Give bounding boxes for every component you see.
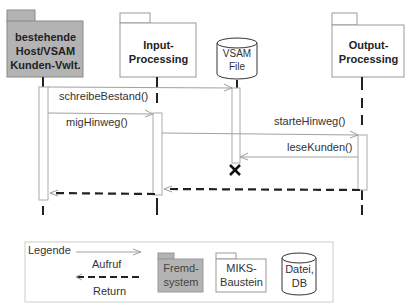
legend-external-line-2: system <box>158 275 204 289</box>
return-arrows <box>50 186 360 196</box>
legend-module-label: MIKS- Baustein <box>216 261 267 289</box>
input-label-line-2: Processing <box>120 52 197 66</box>
legend-db-label: Datei, DB <box>282 262 317 290</box>
vsam-label-line-2: File <box>217 60 257 73</box>
message-label-schreibebestand: schreibeBestand() <box>59 90 148 102</box>
message-label-mighinweg: migHinweg() <box>66 116 128 128</box>
input-participant-label: Input- Processing <box>120 38 197 66</box>
legend-db-line-2: DB <box>282 276 317 290</box>
legend-module-line-1: MIKS- <box>216 261 267 275</box>
input-label-line-1: Input- <box>120 38 197 52</box>
output-label-line-1: Output- <box>332 38 405 52</box>
host-label-line-3: Kunden-Vwlt. <box>7 58 84 72</box>
vsam-participant-label: VSAM File <box>217 47 257 73</box>
legend-external-line-1: Fremd- <box>158 261 204 275</box>
destroy-x-icon <box>230 165 240 175</box>
legend-call-label: Aufruf <box>92 258 121 270</box>
message-label-lesekunden: leseKunden() <box>287 141 352 153</box>
legend-module-line-2: Baustein <box>216 275 267 289</box>
legend-db-line-1: Datei, <box>282 262 317 276</box>
message-label-startehinweg: starteHinweg() <box>274 115 346 127</box>
vsam-label-line-1: VSAM <box>217 47 257 60</box>
output-label-line-2: Processing <box>332 52 405 66</box>
legend-external-system-label: Fremd- system <box>158 261 204 289</box>
host-participant-label: bestehende Host/VSAM Kunden-Vwlt. <box>7 30 84 72</box>
legend-title: Legende <box>28 244 71 256</box>
legend-return-label: Return <box>93 285 126 297</box>
host-label-line-2: Host/VSAM <box>7 44 84 58</box>
host-label-line-1: bestehende <box>7 30 84 44</box>
output-participant-label: Output- Processing <box>332 38 405 66</box>
